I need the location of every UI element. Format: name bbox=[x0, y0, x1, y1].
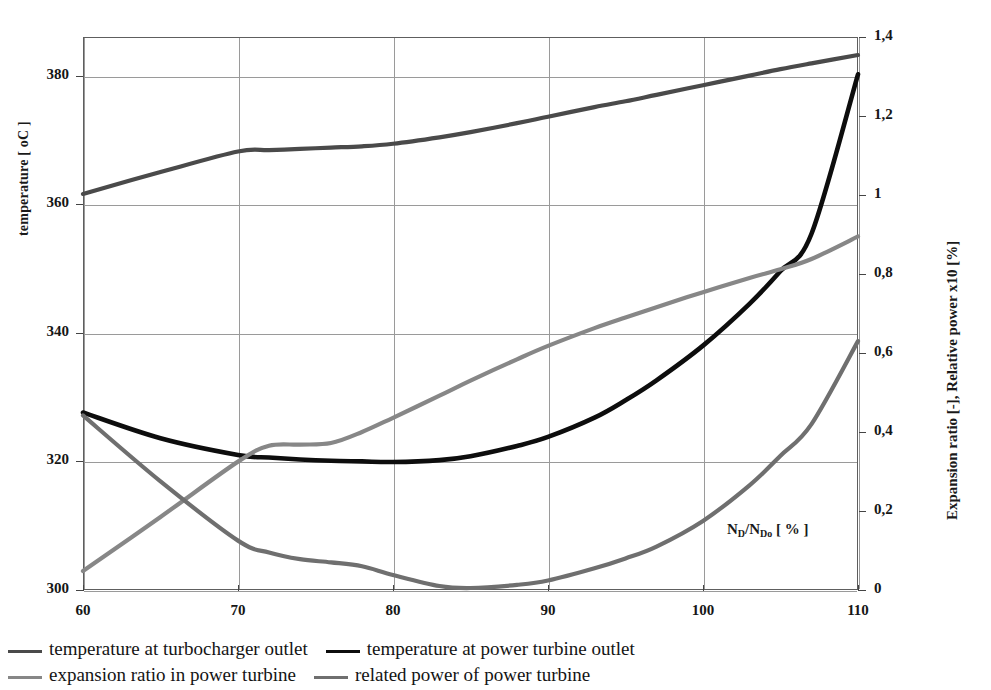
x-tick-mark bbox=[858, 585, 859, 591]
y-tick-mark-right bbox=[859, 274, 866, 275]
x-annotation-unit: [ % ] bbox=[772, 521, 808, 537]
legend-entry: related power of power turbine bbox=[314, 662, 608, 688]
legend-entry: temperature at power turbine outlet bbox=[326, 636, 653, 662]
y-axis-left-title-text: temperature [ oC ] bbox=[16, 121, 32, 236]
chart-legend: temperature at turbocharger outlettemper… bbox=[8, 636, 983, 688]
y-tick-label-right: 0,4 bbox=[874, 422, 893, 439]
series-line-4 bbox=[83, 341, 858, 588]
series-line-1 bbox=[83, 55, 858, 194]
chart-curves-layer bbox=[83, 37, 858, 590]
y-tick-label-right: 1 bbox=[874, 185, 882, 202]
y-tick-mark-right bbox=[859, 116, 866, 117]
x-tick-label: 100 bbox=[673, 602, 733, 619]
y-tick-mark-right bbox=[859, 195, 866, 196]
y-tick-label-right: 0,8 bbox=[874, 264, 893, 281]
y-tick-label-right: 1,4 bbox=[874, 27, 893, 44]
x-tick-mark bbox=[548, 585, 549, 591]
x-tick-mark bbox=[393, 585, 394, 591]
y-tick-mark-left bbox=[76, 461, 83, 462]
y-tick-mark-left bbox=[76, 76, 83, 77]
y-tick-label-right: 0 bbox=[874, 580, 882, 597]
x-tick-mark bbox=[83, 585, 84, 591]
legend-entry: temperature at turbocharger outlet bbox=[8, 636, 326, 662]
x-tick-label: 60 bbox=[53, 602, 113, 619]
y-tick-mark-right bbox=[859, 511, 866, 512]
legend-label: temperature at turbocharger outlet bbox=[49, 636, 308, 662]
x-tick-label: 110 bbox=[828, 602, 888, 619]
x-annotation-slash: /N bbox=[745, 521, 760, 537]
legend-label: related power of power turbine bbox=[355, 662, 590, 688]
y-tick-label-left: 320 bbox=[0, 451, 69, 468]
x-annotation-n1: N bbox=[727, 521, 738, 537]
y-tick-mark-left bbox=[76, 590, 83, 591]
y-axis-right-title: Expansion ratio [-], Relative power x10 … bbox=[944, 100, 961, 520]
legend-entry: expansion ratio in power turbine bbox=[8, 662, 314, 688]
y-tick-label-right: 0,2 bbox=[874, 501, 893, 518]
x-annotation-sub-d: D bbox=[738, 528, 745, 539]
y-tick-mark-right bbox=[859, 37, 866, 38]
x-tick-label: 70 bbox=[208, 602, 268, 619]
x-annotation-sub-do: Do bbox=[760, 528, 772, 539]
legend-row: temperature at turbocharger outlettemper… bbox=[8, 636, 983, 662]
chart-figure: 300320340360380 00,20,40,60,811,21,4 607… bbox=[0, 0, 991, 690]
y-tick-label-left: 380 bbox=[0, 66, 69, 83]
legend-row: expansion ratio in power turbinerelated … bbox=[8, 662, 983, 688]
x-tick-label: 80 bbox=[363, 602, 423, 619]
y-tick-mark-right bbox=[859, 353, 866, 354]
x-axis-annotation: ND/NDo [ % ] bbox=[727, 521, 809, 538]
y-axis-left-title: temperature [ oC ] bbox=[16, 36, 32, 236]
y-tick-mark-right bbox=[859, 432, 866, 433]
legend-label: expansion ratio in power turbine bbox=[49, 662, 296, 688]
y-tick-mark-left bbox=[76, 204, 83, 205]
legend-swatch-line-icon bbox=[8, 676, 42, 679]
gridline-vertical bbox=[859, 38, 860, 589]
y-tick-label-right: 0,6 bbox=[874, 343, 893, 360]
y-tick-label-left: 300 bbox=[0, 580, 69, 597]
gridline-horizontal bbox=[84, 591, 857, 592]
y-tick-label-left: 360 bbox=[0, 194, 69, 211]
y-tick-mark-left bbox=[76, 333, 83, 334]
y-tick-mark-right bbox=[859, 590, 866, 591]
legend-swatch-line-icon bbox=[314, 676, 348, 679]
x-tick-mark bbox=[703, 585, 704, 591]
legend-label: temperature at power turbine outlet bbox=[367, 636, 635, 662]
y-tick-label-left: 340 bbox=[0, 323, 69, 340]
x-tick-mark bbox=[238, 585, 239, 591]
legend-swatch-line-icon bbox=[8, 650, 42, 653]
x-tick-label: 90 bbox=[518, 602, 578, 619]
legend-swatch-line-icon bbox=[326, 650, 360, 653]
y-tick-label-right: 1,2 bbox=[874, 106, 893, 123]
